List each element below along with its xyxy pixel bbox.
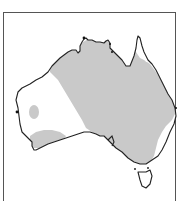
shaded-region-southwest — [30, 130, 66, 148]
island-marker — [16, 111, 19, 114]
shaded-patch-west — [29, 105, 39, 119]
australia-map — [0, 0, 194, 201]
bass-strait-island — [134, 168, 136, 170]
tasmania — [138, 170, 152, 188]
island-marker — [109, 43, 111, 45]
island-marker — [111, 51, 113, 53]
island-marker — [83, 37, 86, 40]
island-marker — [175, 107, 177, 109]
bass-strait-island — [147, 167, 149, 169]
